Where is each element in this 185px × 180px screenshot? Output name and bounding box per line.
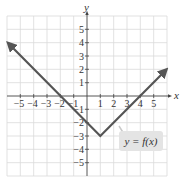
y-tick-label: −5	[73, 157, 84, 168]
axes	[7, 13, 170, 176]
x-tick-labels: −5 −4 −3 −2 −1 1 2 3 4 5	[14, 98, 157, 109]
x-axis-label: x	[173, 89, 179, 101]
x-tick-label: 4	[138, 98, 143, 109]
x-tick-label: −5	[14, 98, 25, 109]
y-tick-label: −3	[73, 131, 84, 142]
x-tick-label: 2	[111, 98, 116, 109]
x-tick-label: −4	[27, 98, 38, 109]
function-label-text: y = f(x)	[123, 135, 157, 148]
y-tick-label: 5	[79, 24, 84, 35]
y-tick-label: 1	[79, 77, 84, 88]
x-tick-label: −3	[41, 98, 52, 109]
y-tick-label: −4	[73, 144, 84, 155]
y-tick-label: 3	[79, 51, 84, 62]
y-tick-label: 4	[79, 37, 84, 48]
function-graph: x y −5 −4 −3 −2 −1 1 2 3 4 5 5 4 3 2 1 −…	[0, 0, 185, 180]
x-tick-label: 5	[151, 98, 156, 109]
y-tick-label: 2	[79, 64, 84, 75]
x-tick-label: 1	[98, 98, 103, 109]
y-axis-label: y	[83, 1, 89, 13]
function-label: y = f(x)	[119, 131, 163, 151]
